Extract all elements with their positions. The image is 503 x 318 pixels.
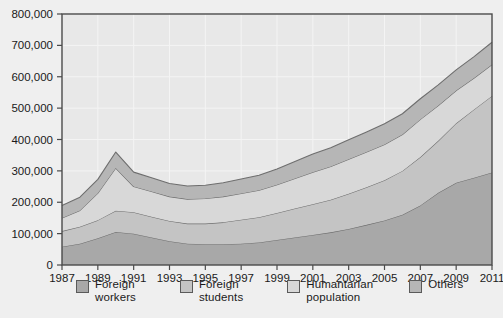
legend-label-others: Others <box>428 278 463 291</box>
legend-item-foreign-students: Foreign students <box>180 278 243 303</box>
legend-item-foreign-workers: Foreign workers <box>76 278 136 303</box>
svg-text:200,000: 200,000 <box>11 196 53 208</box>
legend-swatch-humanitarian-population <box>287 280 300 293</box>
legend-swatch-others <box>409 280 422 293</box>
svg-text:700,000: 700,000 <box>11 39 53 51</box>
svg-text:800,000: 800,000 <box>11 8 53 20</box>
legend-item-others: Others <box>409 278 463 293</box>
legend-label-foreign-workers: Foreign workers <box>95 278 136 303</box>
svg-text:600,000: 600,000 <box>11 71 53 83</box>
legend-swatch-foreign-workers <box>76 280 89 293</box>
chart-legend: Foreign workers Foreign students Humanta… <box>0 278 503 318</box>
svg-text:500,000: 500,000 <box>11 102 53 114</box>
plot-area <box>62 14 492 265</box>
svg-text:400,000: 400,000 <box>11 134 53 146</box>
svg-text:0: 0 <box>47 259 53 271</box>
legend-swatch-foreign-students <box>180 280 193 293</box>
legend-item-humanitarian-population: Humantarian population <box>287 278 373 303</box>
stacked-area-chart: 0100,000200,000300,000400,000500,000600,… <box>0 0 503 318</box>
legend-label-foreign-students: Foreign students <box>199 278 243 303</box>
svg-text:100,000: 100,000 <box>11 228 53 240</box>
svg-text:300,000: 300,000 <box>11 165 53 177</box>
legend-label-humanitarian-population: Humantarian population <box>306 278 373 303</box>
chart-figure: 0100,000200,000300,000400,000500,000600,… <box>0 0 503 318</box>
